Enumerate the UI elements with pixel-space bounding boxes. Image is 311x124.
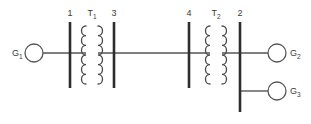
bus-label-bus1: 1 [67,8,72,18]
bus-label-bus2: 2 [237,8,242,18]
generator-symbol-g3 [268,82,286,100]
single-line-diagram: 1342T1T2G1G2G3 [0,0,311,124]
generator-symbol-g2 [268,44,286,62]
generator-symbol-g1 [25,44,43,62]
transformer-t1-primary-winding [82,26,87,84]
diagram-canvas: 1342T1T2G1G2G3 [0,0,311,124]
generator-label-g1: G1 [12,48,23,60]
transformer-t2-secondary-winding [222,26,227,84]
transformer-t2-primary-winding [206,26,211,84]
transformer-t1-secondary-winding [98,26,103,84]
transformer-label-t2: T2 [211,8,221,20]
bus-label-bus3: 3 [111,8,116,18]
bus-label-bus4: 4 [186,8,191,18]
generator-label-g3: G3 [290,86,301,98]
transformer-label-t1: T1 [87,8,97,20]
generator-label-g2: G2 [290,48,301,60]
